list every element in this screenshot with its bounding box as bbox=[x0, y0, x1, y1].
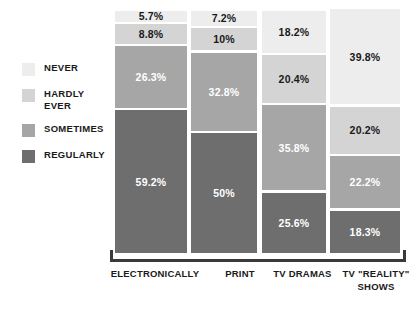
bar-segment: 32.8% bbox=[191, 53, 257, 131]
bar-segment-value-label: 25.6% bbox=[279, 217, 310, 229]
legend-item-label: NEVER bbox=[44, 62, 78, 74]
x-axis-category-label: TV "REALITY" SHOWS bbox=[336, 268, 413, 293]
bar-segment-value-label: 26.3% bbox=[136, 71, 167, 83]
bar-segment: 20.4% bbox=[262, 55, 326, 102]
bar-segment-value-label: 18.3% bbox=[350, 226, 381, 238]
bar-segment: 59.2% bbox=[115, 110, 187, 253]
x-axis-line bbox=[110, 259, 406, 262]
bar-segment-value-label: 5.7% bbox=[139, 10, 164, 22]
bar-segment: 25.6% bbox=[262, 193, 326, 253]
bar-segment: 5.7% bbox=[115, 11, 187, 22]
chart-plot-area: 59.2%26.3%8.8%5.7%50%32.8%10%7.2%25.6%35… bbox=[113, 8, 403, 253]
x-axis-category-label: ELECTRONICALLY bbox=[100, 268, 210, 281]
bar-segment: 39.8% bbox=[330, 9, 400, 104]
bar-segment: 18.3% bbox=[330, 211, 400, 253]
legend-swatch-icon bbox=[22, 124, 35, 137]
bar-column: 59.2%26.3%8.8%5.7% bbox=[115, 8, 187, 253]
legend-swatch-icon bbox=[22, 89, 35, 102]
bar-segment-value-label: 7.2% bbox=[212, 12, 237, 24]
bar-segment: 22.2% bbox=[330, 156, 400, 208]
bar-segment-value-label: 18.2% bbox=[279, 26, 310, 38]
bar-segment-value-label: 22.2% bbox=[350, 176, 381, 188]
legend-item-label: SOMETIMES bbox=[44, 123, 104, 135]
bar-segment-value-label: 10% bbox=[213, 33, 235, 45]
bar-segment: 50% bbox=[191, 133, 257, 253]
x-axis-category-labels: ELECTRONICALLYPRINTTV DRAMASTV "REALITY"… bbox=[100, 268, 413, 308]
stacked-bar-chart: NEVERHARDLY EVERSOMETIMESREGULARLY 59.2%… bbox=[0, 0, 413, 320]
legend-item-label: REGULARLY bbox=[44, 149, 105, 161]
bar-column: 25.6%35.8%20.4%18.2% bbox=[262, 8, 326, 253]
bar-segment-value-label: 50% bbox=[213, 187, 235, 199]
bar-segment: 20.2% bbox=[330, 107, 400, 154]
legend-item-label: HARDLY EVER bbox=[44, 88, 85, 111]
legend-swatch-icon bbox=[22, 63, 35, 76]
bar-segment-value-label: 39.8% bbox=[350, 51, 381, 63]
bar-column: 18.3%22.2%20.2%39.8% bbox=[330, 8, 400, 253]
legend-swatch-icon bbox=[22, 150, 35, 163]
bar-segment: 18.2% bbox=[262, 11, 326, 53]
bar-segment: 26.3% bbox=[115, 46, 187, 108]
bar-segment: 7.2% bbox=[191, 11, 257, 26]
bar-segment: 35.8% bbox=[262, 105, 326, 190]
bar-segment-value-label: 20.4% bbox=[279, 73, 310, 85]
bar-segment-value-label: 32.8% bbox=[209, 86, 240, 98]
x-axis-category-label: TV DRAMAS bbox=[260, 268, 345, 281]
bar-segment: 10% bbox=[191, 28, 257, 50]
bar-segment-value-label: 20.2% bbox=[350, 124, 381, 136]
bar-segment-value-label: 59.2% bbox=[136, 176, 167, 188]
x-axis-bracket bbox=[110, 250, 406, 262]
x-axis-cap-left bbox=[110, 250, 113, 262]
bar-segment: 8.8% bbox=[115, 24, 187, 43]
bar-segment-value-label: 35.8% bbox=[279, 142, 310, 154]
x-axis-cap-right bbox=[403, 250, 406, 262]
bar-column: 50%32.8%10%7.2% bbox=[191, 8, 257, 253]
bar-segment-value-label: 8.8% bbox=[139, 28, 164, 40]
